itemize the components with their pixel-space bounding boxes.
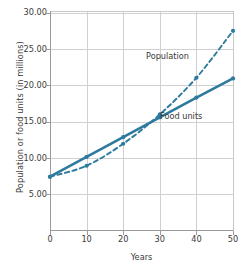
- data-point-marker: [194, 95, 198, 99]
- data-point-marker: [121, 135, 125, 139]
- population-markers: [48, 29, 235, 179]
- data-point-marker: [231, 76, 235, 80]
- population-line: [50, 31, 233, 177]
- chart-container: Population or food units (in millions) Y…: [0, 0, 247, 269]
- series-layer: [0, 0, 247, 269]
- data-point-marker: [231, 29, 235, 33]
- series-food-units: [48, 76, 235, 178]
- data-point-marker: [194, 76, 198, 80]
- series-population: [48, 29, 235, 179]
- data-point-marker: [121, 142, 125, 146]
- food-units-series-label: Food units: [160, 111, 202, 121]
- population-series-label: Population: [146, 51, 189, 61]
- data-point-marker: [48, 175, 52, 179]
- data-point-marker: [85, 155, 89, 159]
- food-units-line: [50, 78, 233, 176]
- data-point-marker: [85, 164, 89, 168]
